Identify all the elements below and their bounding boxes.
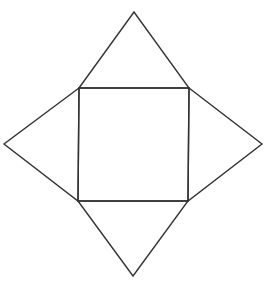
left-triangle [4,88,79,201]
bottom-triangle [78,201,188,276]
diagram-svg [0,0,266,281]
base-square [78,88,189,201]
pyramid-net-diagram [0,0,266,281]
right-triangle [188,88,262,201]
top-triangle [79,12,189,88]
